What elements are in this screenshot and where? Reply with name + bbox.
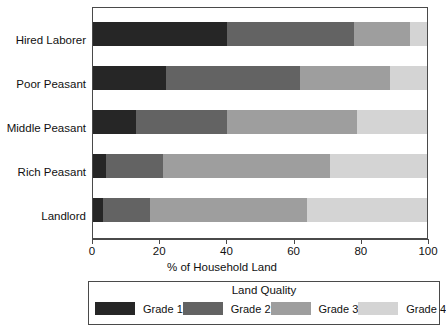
legend-label: Grade 4 (406, 303, 446, 315)
legend-label: Grade 3 (319, 303, 359, 315)
bar-segment (93, 66, 166, 90)
x-axis-tick (361, 239, 362, 244)
bar-segment (163, 154, 330, 178)
x-axis-tick (159, 239, 160, 244)
bar-segment (150, 198, 307, 222)
y-axis-label-3: Rich Peasant (0, 166, 86, 179)
legend-swatch (358, 302, 398, 315)
bar-segment (93, 198, 103, 222)
bar-row (93, 110, 427, 134)
bar-segment (166, 66, 300, 90)
y-axis-label-4: Landlord (0, 210, 86, 223)
legend-swatch (95, 302, 135, 315)
bar-segment (357, 110, 427, 134)
legend-item: Grade 2 (183, 302, 271, 315)
legend-items: Grade 1Grade 2Grade 3Grade 4 (95, 302, 435, 315)
bar-segment (136, 110, 226, 134)
x-axis-tick-label: 40 (220, 245, 233, 258)
x-axis-tick (92, 239, 93, 244)
bar-segment (103, 198, 150, 222)
bar-segment (227, 22, 354, 46)
bar-segment (227, 110, 357, 134)
bar-segment (93, 110, 136, 134)
x-axis-tick-label: 80 (354, 245, 367, 258)
bar-segment (410, 22, 427, 46)
bar-segment (300, 66, 390, 90)
legend-item: Grade 1 (95, 302, 183, 315)
x-axis-line (92, 239, 428, 240)
legend-item: Grade 4 (358, 302, 446, 315)
x-axis-title: % of Household Land (0, 261, 444, 273)
bar-segment (93, 22, 227, 46)
x-axis-tick-label: 60 (287, 245, 300, 258)
legend-label: Grade 1 (143, 303, 183, 315)
x-axis-tick (428, 239, 429, 244)
x-axis-tick (294, 239, 295, 244)
bar-row (93, 66, 427, 90)
legend-item: Grade 3 (271, 302, 359, 315)
legend-swatch (183, 302, 223, 315)
y-axis-label-2: Middle Peasant (0, 122, 86, 135)
x-axis-tick-label: 20 (153, 245, 166, 258)
y-axis-category-labels: Hired Laborer Poor Peasant Middle Peasan… (0, 7, 86, 239)
bar-segment (390, 66, 427, 90)
x-axis-tick (226, 239, 227, 244)
legend-title: Land Quality (89, 284, 439, 296)
bars-layer (93, 8, 427, 238)
x-axis-tick-label: 100 (418, 245, 437, 258)
bar-segment (93, 154, 106, 178)
x-axis-tick-label: 0 (89, 245, 95, 258)
y-axis-label-0: Hired Laborer (0, 34, 86, 47)
bar-segment (106, 154, 163, 178)
y-axis-label-1: Poor Peasant (0, 78, 86, 91)
bar-segment (330, 154, 427, 178)
legend-swatch (271, 302, 311, 315)
bar-segment (307, 198, 427, 222)
bar-segment (354, 22, 411, 46)
bar-row (93, 154, 427, 178)
bar-row (93, 198, 427, 222)
legend: Land Quality Grade 1Grade 2Grade 3Grade … (88, 281, 440, 325)
legend-label: Grade 2 (231, 303, 271, 315)
bar-row (93, 22, 427, 46)
